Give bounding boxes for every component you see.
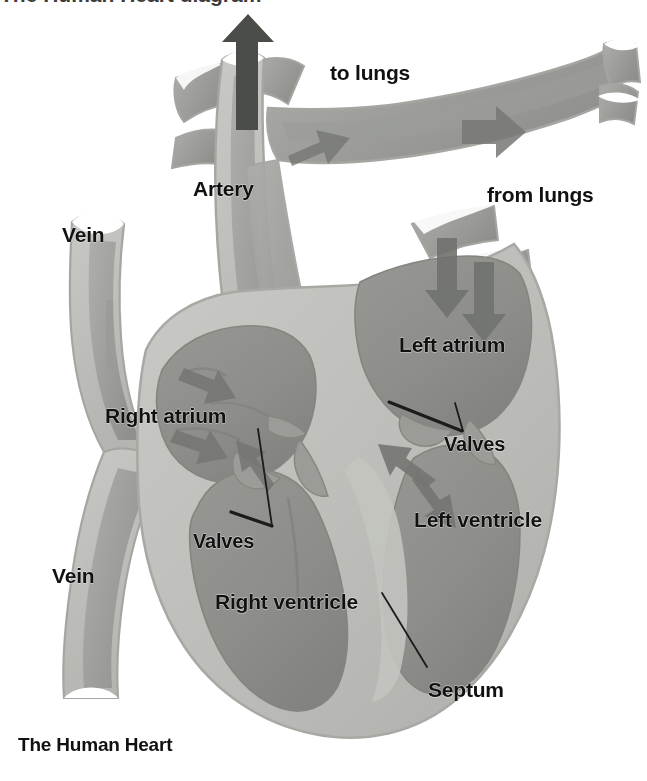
label-valves-right: Valves [444, 434, 505, 454]
figure-title: The Human Heart [18, 735, 172, 754]
label-artery: Artery [193, 178, 254, 199]
label-to-lungs: to lungs [330, 62, 410, 83]
heart-illustration [0, 0, 647, 781]
label-from-lungs: from lungs [487, 184, 594, 205]
label-septum: Septum [428, 679, 504, 700]
label-right-atrium: Right atrium [105, 405, 226, 426]
label-left-ventricle: Left ventricle [414, 509, 542, 530]
label-valves-left: Valves [193, 531, 254, 551]
label-vein-upper: Vein [62, 224, 104, 245]
label-vein-lower: Vein [52, 565, 94, 586]
heart-diagram-canvas: The Human Heart diagram [0, 0, 647, 781]
label-right-ventricle: Right ventricle [215, 591, 358, 612]
label-left-atrium: Left atrium [399, 334, 505, 355]
